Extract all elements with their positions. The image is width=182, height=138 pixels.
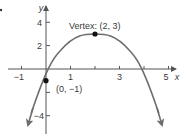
y-axis-label: y (38, 3, 44, 13)
parabola-chart: −1 1 3 5 x 4 2 −4 y Vertex: (2, 3) (0, −… (0, 0, 182, 138)
x-tick-label-5: 5 (163, 72, 168, 82)
y-intercept-point (43, 78, 48, 83)
x-tick-label-neg1: −1 (14, 72, 24, 82)
y-tick-label-2: 2 (37, 41, 42, 51)
x-axis-label: x (174, 72, 180, 82)
curve-arrow-right (157, 108, 162, 125)
y-tick-label-neg4: −4 (34, 111, 44, 121)
x-tick-label-1: 1 (68, 72, 73, 82)
problem-bullet (0, 9, 2, 11)
vertex-point (92, 31, 97, 36)
y-tick-label-4: 4 (37, 18, 42, 28)
curve-arrow-left (28, 108, 33, 125)
vertex-label: Vertex: (2, 3) (69, 21, 121, 31)
x-tick-label-3: 3 (117, 72, 122, 82)
y-intercept-label: (0, −1) (56, 84, 82, 94)
parabola-curve (31, 34, 158, 113)
